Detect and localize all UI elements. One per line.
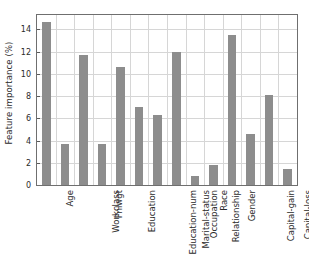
y-axis-tick-label: 4: [26, 136, 31, 145]
x-axis-tick-label: Education-num: [188, 190, 198, 254]
x-axis-tick-label: Gender: [248, 190, 258, 221]
bar: [209, 165, 218, 185]
x-axis-tick-label: Fnlwgt: [115, 190, 125, 218]
y-axis-tick-mark: [37, 118, 40, 119]
x-axis-tick-label: Relationship: [231, 190, 241, 242]
x-axis-tick-label: Age: [66, 190, 76, 206]
y-axis-tick-mark: [37, 96, 40, 97]
x-axis-tick-label: Occupation: [209, 190, 219, 238]
bar: [191, 176, 200, 185]
y-axis-tick-label: 0: [26, 181, 31, 190]
bar: [98, 144, 107, 185]
bar: [265, 95, 274, 185]
y-axis-tick-mark: [37, 52, 40, 53]
vertical-gridline: [260, 15, 261, 185]
y-axis-tick-mark: [37, 29, 40, 30]
bar: [246, 134, 255, 185]
bar: [79, 55, 88, 185]
y-axis-tick-label: 6: [26, 114, 31, 123]
y-axis-tick-mark: [37, 74, 40, 75]
y-axis-tick-label: 8: [26, 92, 31, 101]
x-axis-tick-label: Race: [219, 190, 229, 211]
y-axis-tick-label: 14: [21, 25, 31, 34]
vertical-gridline: [93, 15, 94, 185]
vertical-gridline: [278, 15, 279, 185]
y-axis-tick-mark: [37, 141, 40, 142]
bar: [42, 22, 51, 185]
y-axis-title: Feature importance (%): [3, 42, 13, 145]
x-axis-tick-label: Capital-gain: [286, 190, 296, 241]
y-axis-tick-label: 10: [21, 69, 31, 78]
vertical-gridline: [186, 15, 187, 185]
vertical-gridline: [241, 15, 242, 185]
bar-chart-figure: Feature importance (%) 02468101214 AgeWo…: [0, 0, 309, 269]
vertical-gridline: [223, 15, 224, 185]
y-axis-tick-labels: 02468101214: [14, 14, 34, 186]
vertical-gridline: [167, 15, 168, 185]
bar: [135, 107, 144, 185]
y-axis-tick-label: 2: [26, 158, 31, 167]
vertical-gridline: [204, 15, 205, 185]
bar: [153, 115, 162, 185]
x-axis-tick-label: Capital-loss: [303, 190, 309, 239]
vertical-gridline: [111, 15, 112, 185]
vertical-gridline: [56, 15, 57, 185]
plot-area: [36, 14, 298, 186]
vertical-gridline: [148, 15, 149, 185]
bar: [283, 169, 292, 185]
bar: [228, 35, 237, 185]
bar: [116, 67, 125, 185]
vertical-gridline: [74, 15, 75, 185]
bar: [61, 144, 70, 185]
bar: [172, 52, 181, 185]
y-axis-tick-mark: [37, 163, 40, 164]
vertical-gridline: [130, 15, 131, 185]
x-axis-tick-labels: AgeWorkclassFnlwgtEducationEducation-num…: [36, 186, 298, 269]
y-axis-tick-label: 12: [21, 47, 31, 56]
x-axis-tick-label: Education: [147, 190, 157, 232]
